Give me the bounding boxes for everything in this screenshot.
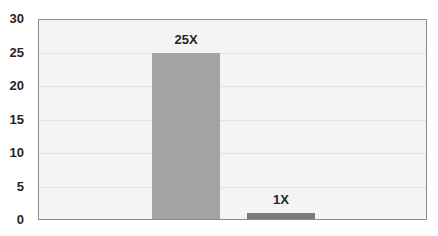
y-tick-label: 0 — [0, 213, 24, 227]
gridline — [39, 153, 426, 154]
gridline — [39, 53, 426, 54]
y-tick-label: 30 — [0, 12, 24, 26]
bar — [247, 213, 315, 219]
y-tick-label: 15 — [0, 113, 24, 127]
bar — [152, 53, 220, 220]
gridline — [39, 120, 426, 121]
y-tick-label: 20 — [0, 79, 24, 93]
bar-data-label: 25X — [152, 33, 220, 47]
plot-area — [38, 19, 427, 220]
y-tick-label: 10 — [0, 146, 24, 160]
y-tick-label: 5 — [0, 180, 24, 194]
y-tick-label: 25 — [0, 46, 24, 60]
bar-chart: 051015202530 25X1X — [0, 0, 438, 236]
gridline — [39, 86, 426, 87]
bar-data-label: 1X — [247, 193, 315, 207]
gridline — [39, 187, 426, 188]
